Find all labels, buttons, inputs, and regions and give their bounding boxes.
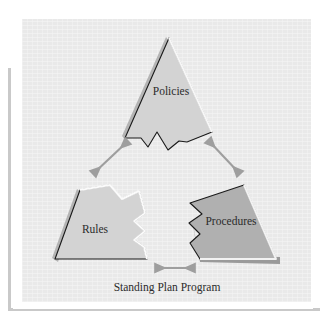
decorative-rule-vertical bbox=[8, 68, 11, 311]
rules-label: Rules bbox=[82, 223, 109, 235]
puzzle-piece-procedures[interactable]: Procedures bbox=[189, 185, 280, 264]
policies-label: Policies bbox=[153, 85, 190, 97]
illustration-panel: Policies Rules Procedures bbox=[22, 19, 311, 302]
arrow-policies-procedures[interactable] bbox=[208, 140, 240, 174]
figure-root: Policies Rules Procedures bbox=[0, 0, 326, 328]
procedures-label: Procedures bbox=[205, 215, 257, 227]
puzzle-diagram: Policies Rules Procedures bbox=[22, 19, 311, 302]
arrow-policies-rules[interactable] bbox=[93, 141, 128, 174]
puzzle-piece-policies[interactable]: Policies bbox=[122, 37, 212, 150]
puzzle-piece-rules[interactable]: Rules bbox=[52, 185, 147, 262]
figure-caption: Standing Plan Program bbox=[114, 281, 221, 294]
